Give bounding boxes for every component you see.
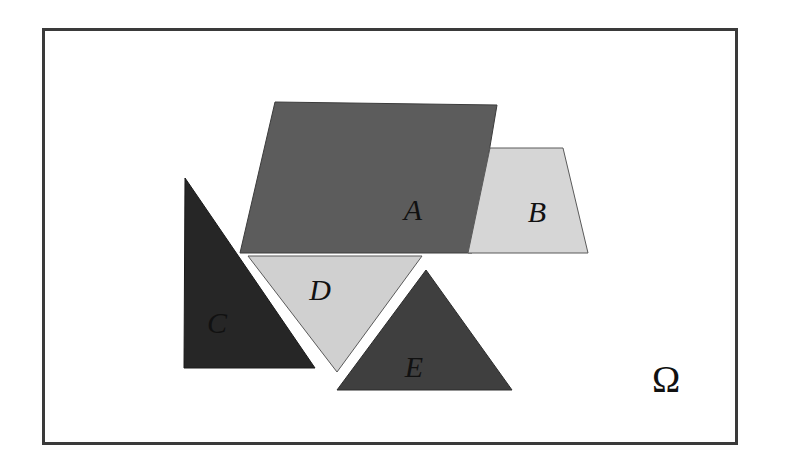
region-label-D: D xyxy=(308,273,331,306)
region-A-shape[interactable] xyxy=(240,102,497,253)
region-label-B: B xyxy=(528,195,546,228)
set-diagram-svg: A B C D E Ω xyxy=(0,0,789,471)
region-label-E: E xyxy=(404,350,423,383)
figure-canvas: A B C D E Ω xyxy=(0,0,789,471)
region-label-A: A xyxy=(402,193,423,226)
universe-omega-symbol: Ω xyxy=(652,358,680,400)
region-label-C: C xyxy=(207,306,228,339)
